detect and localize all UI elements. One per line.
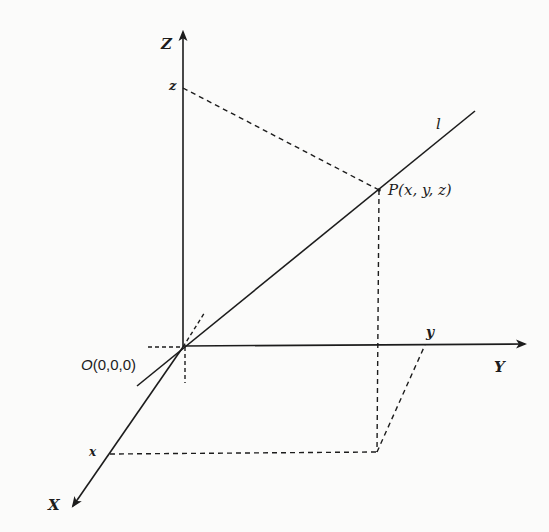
x-projection-dashed (110, 452, 377, 454)
y-axis-label: Y (494, 360, 505, 375)
x-axis-label: X (48, 498, 60, 513)
line-l-label: l (436, 117, 441, 132)
z-axis-label: Z (161, 37, 172, 52)
origin-label: O(0,0,0) (81, 357, 136, 373)
y-projection-dashed (377, 345, 425, 452)
z-tick-label: z (169, 79, 176, 92)
point-p-marker (377, 188, 381, 192)
z-projection-dashed (183, 88, 379, 190)
p-vertical-dashed (377, 190, 379, 452)
x-tick-label: x (89, 446, 96, 458)
diagram-canvas (0, 0, 549, 532)
x-axis-negative-dashed (183, 312, 205, 347)
point-p-label: P(x, y, z) (388, 183, 452, 198)
y-tick-label: y (426, 325, 434, 339)
y-axis (183, 344, 525, 346)
origin-letter: O (81, 356, 93, 373)
coordinate-diagram: Z z l P(x, y, z) y Y O(0,0,0) x X (0, 0, 549, 532)
origin-coords: (0,0,0) (93, 356, 136, 373)
